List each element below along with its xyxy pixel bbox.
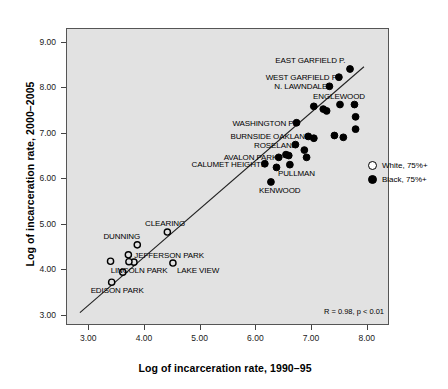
y-tick-mark xyxy=(61,42,66,43)
data-point-black xyxy=(310,135,317,142)
data-point-label: KENWOOD xyxy=(259,186,301,195)
x-tick-mark xyxy=(255,325,256,330)
y-tick-label: 3.00 xyxy=(26,310,56,320)
data-point-label: LINCOLN PARK xyxy=(111,266,168,275)
data-point-black xyxy=(337,101,344,108)
x-tick-label: 6.00 xyxy=(235,333,275,343)
data-point-label: WEST GARFIELD P xyxy=(266,73,337,82)
data-point-label: DUNNING xyxy=(103,232,140,241)
data-point-white xyxy=(170,260,176,266)
data-point-white xyxy=(109,279,115,285)
x-tick-label: 8.00 xyxy=(347,333,387,343)
data-point-black xyxy=(301,147,308,154)
data-point-label: EDISON PARK xyxy=(91,286,144,295)
data-point-black xyxy=(340,134,347,141)
open-circle-icon xyxy=(368,161,377,170)
y-tick-mark xyxy=(61,224,66,225)
x-tick-mark xyxy=(144,325,145,330)
data-point-black xyxy=(352,126,359,133)
y-tick-mark xyxy=(61,133,66,134)
data-point-white xyxy=(125,252,131,258)
data-point-label: JEFFERSON PARK xyxy=(134,251,204,260)
data-point-white xyxy=(126,259,132,265)
data-point-black xyxy=(331,132,338,139)
x-tick-mark xyxy=(367,325,368,330)
data-point-black xyxy=(351,101,358,108)
filled-circle-icon xyxy=(368,175,377,184)
x-tick-label: 3.00 xyxy=(68,333,108,343)
correlation-annotation: R = 0.98, p < 0.01 xyxy=(324,307,384,316)
data-point-white xyxy=(134,242,140,248)
plot-canvas xyxy=(66,28,389,325)
legend-item-black: Black, 75%+ xyxy=(368,172,428,186)
data-point-label: CLEARING xyxy=(145,219,185,228)
data-point-black xyxy=(323,108,330,115)
data-point-black xyxy=(352,113,359,120)
legend: White, 75%+ Black, 75%+ xyxy=(368,158,428,186)
x-tick-mark xyxy=(88,325,89,330)
data-point-label: CALUMET HEIGHTS xyxy=(192,160,266,169)
data-point-label: ENGLEWOOD xyxy=(313,92,365,101)
y-tick-mark xyxy=(61,315,66,316)
data-point-black xyxy=(268,179,275,186)
y-tick-mark xyxy=(61,269,66,270)
data-point-black xyxy=(347,66,354,73)
x-axis-title: Log of incarceration rate, 1990–95 xyxy=(60,362,390,374)
legend-label-white: White, 75%+ xyxy=(382,161,428,170)
data-point-label: LAKE VIEW xyxy=(177,266,219,275)
y-tick-label: 9.00 xyxy=(26,37,56,47)
data-point-label: N. LAWNDALE xyxy=(274,82,327,91)
y-tick-mark xyxy=(61,87,66,88)
legend-item-white: White, 75%+ xyxy=(368,158,428,172)
data-point-black xyxy=(310,103,317,110)
data-point-label: PULLMAN xyxy=(278,169,315,178)
legend-label-black: Black, 75%+ xyxy=(382,175,427,184)
data-point-black xyxy=(286,161,293,168)
x-tick-label: 7.00 xyxy=(291,333,331,343)
data-point-label: WASHINGTON P. xyxy=(232,119,294,128)
data-point-black xyxy=(285,152,292,159)
x-tick-mark xyxy=(311,325,312,330)
scatter-plot-figure: 3.004.005.006.007.008.009.003.004.005.00… xyxy=(0,0,448,389)
x-tick-label: 5.00 xyxy=(180,333,220,343)
y-tick-mark xyxy=(61,178,66,179)
data-point-white xyxy=(164,229,170,235)
data-point-label: ROSELAND xyxy=(254,141,297,150)
data-point-label: EAST GARFIELD P. xyxy=(275,56,345,65)
x-tick-label: 4.00 xyxy=(124,333,164,343)
data-point-white xyxy=(107,258,113,264)
y-axis-title: Log of incarceration rate, 2000–2005 xyxy=(24,74,36,274)
data-point-black xyxy=(303,154,310,161)
x-tick-mark xyxy=(200,325,201,330)
